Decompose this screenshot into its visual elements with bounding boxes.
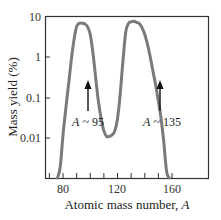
peak1-label: A ~ 95: [71, 115, 104, 129]
peak2-label: A ~ 135: [142, 115, 181, 129]
plot-frame: [46, 17, 209, 179]
y-tick-label-1: 1: [35, 50, 41, 64]
x-tick-label-80: 80: [57, 182, 69, 196]
x-tick-label-120: 120: [108, 182, 126, 196]
mass-yield-curve: [58, 21, 170, 178]
y-axis-title: Mass yield (%): [5, 57, 20, 136]
x-tick-label-160: 160: [163, 182, 181, 196]
peak1-arrow-icon: [85, 80, 92, 111]
x-axis-title: Atomic mass number, A: [64, 197, 189, 212]
y-tick-label-10: 10: [29, 10, 41, 24]
mass-yield-chart: 10 1 0.1 0.01 80 120 160 Atomic mass num…: [0, 0, 221, 220]
y-tick-label-0.1: 0.1: [26, 91, 41, 105]
y-tick-label-0.01: 0.01: [20, 131, 41, 145]
x-axis-ticks: [49, 173, 172, 178]
